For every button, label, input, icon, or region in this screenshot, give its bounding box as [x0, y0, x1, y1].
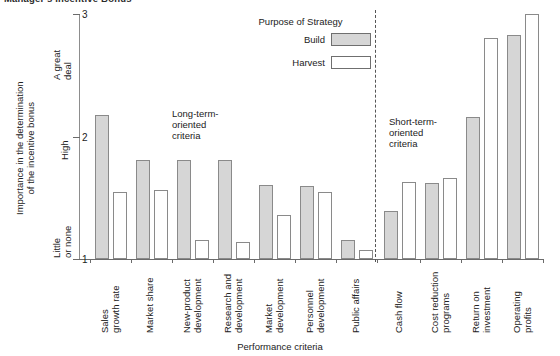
bar-harvest-public-affairs [359, 250, 373, 259]
x-tick [502, 259, 503, 263]
bar-build-return-on-investment [466, 117, 480, 259]
y-axis-label: Importance in the determination of the i… [14, 81, 36, 215]
x-tick [131, 259, 132, 263]
bar-harvest-cost-reduction-programs [443, 178, 457, 259]
x-tick [377, 259, 378, 263]
y-tick-label-1: 1 [82, 254, 88, 265]
x-category-market-development: Market development [264, 279, 285, 333]
x-axis-line [79, 259, 544, 260]
legend-swatch-harvest-icon [331, 56, 371, 69]
x-category-operating-profits: Operating profits [512, 291, 533, 333]
x-tick [254, 259, 255, 263]
x-tick [295, 259, 296, 263]
strategy-divider-line [375, 10, 376, 262]
x-tick [461, 259, 462, 263]
x-category-personnel-development: Personnel development [305, 279, 326, 333]
y-category-little-or-none: Little or none [52, 226, 73, 258]
bar-harvest-sales-growth-rate [113, 192, 127, 259]
y-category-high: High [60, 140, 71, 160]
x-tick [90, 259, 91, 263]
x-category-public-affairs: Public affairs [351, 279, 362, 333]
y-tick-1 [73, 259, 80, 260]
bar-build-sales-growth-rate [95, 115, 109, 259]
x-category-cost-reduction-programs: Cost reduction programs [430, 272, 451, 333]
legend-swatch-build-icon [331, 33, 371, 46]
x-tick [213, 259, 214, 263]
bar-build-new-product-development [177, 160, 191, 259]
bar-harvest-research-and-development [236, 242, 250, 259]
x-tick [420, 259, 421, 263]
bar-build-market-development [259, 185, 273, 259]
bar-build-market-share [136, 160, 150, 259]
x-category-cash-flow: Cash flow [394, 291, 405, 333]
bar-build-personnel-development [300, 186, 314, 259]
bar-harvest-market-share [154, 190, 168, 259]
bar-harvest-market-development [277, 215, 291, 259]
chart-figure: Manager's Incentive Bonus 3 2 1 A great … [0, 0, 560, 356]
bar-build-research-and-development [218, 160, 232, 259]
legend-entry-harvest: Harvest [228, 56, 373, 70]
x-axis-label: Performance criteria [0, 341, 560, 352]
legend-entry-build: Build [228, 33, 373, 47]
x-category-market-share: Market share [145, 278, 156, 333]
legend-title: Purpose of Strategy [228, 16, 373, 27]
legend-label-harvest: Harvest [292, 57, 325, 68]
bar-harvest-cash-flow [402, 182, 416, 259]
x-category-new-product-development: New-product development [182, 279, 203, 333]
y-tick-label-2: 2 [82, 131, 88, 142]
bar-harvest-new-product-development [195, 240, 209, 259]
bar-build-cost-reduction-programs [425, 183, 439, 259]
annotation-long-term-criteria: Long-term- oriented criteria [172, 108, 218, 141]
bar-harvest-return-on-investment [484, 38, 498, 259]
bar-harvest-personnel-development [318, 192, 332, 259]
bar-build-operating-profits [507, 35, 521, 259]
y-tick-2 [73, 137, 80, 138]
bar-build-cash-flow [384, 211, 398, 259]
x-tick [172, 259, 173, 263]
y-category-a-great-deal: A great deal [52, 50, 73, 80]
x-tick [336, 259, 337, 263]
x-category-sales-growth-rate: Sales growth rate [100, 285, 121, 333]
y-tick-label-3: 3 [82, 9, 88, 20]
y-tick-3 [73, 14, 80, 15]
bar-harvest-operating-profits [525, 14, 539, 259]
plot-area: 3 2 1 A great deal High Little or none I… [0, 0, 560, 356]
x-tick [543, 259, 544, 263]
bar-build-public-affairs [341, 240, 355, 259]
x-category-return-on-investment: Return on investment [471, 287, 492, 333]
annotation-short-term-criteria: Short-term- oriented criteria [389, 116, 437, 149]
x-category-research-and-development: Research and development [223, 274, 244, 333]
legend-label-build: Build [304, 34, 325, 45]
